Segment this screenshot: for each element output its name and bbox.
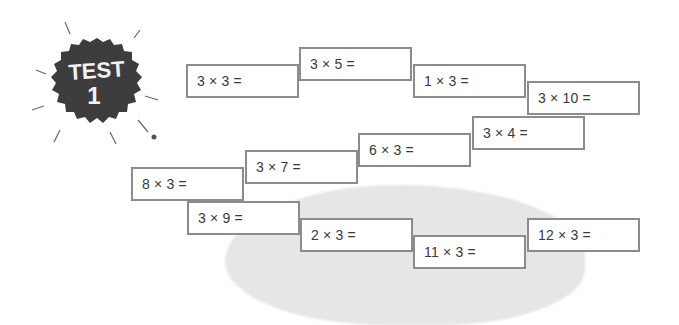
answer-box[interactable]: 3 × 9 = — [187, 201, 300, 235]
answer-box[interactable]: 3 × 10 = — [527, 81, 640, 115]
problem-label: 3 × 4 = — [483, 125, 528, 141]
answer-box[interactable]: 11 × 3 = — [413, 235, 526, 269]
problem-label: 3 × 5 = — [310, 56, 355, 72]
problem-label: 3 × 10 = — [538, 90, 591, 106]
answer-box[interactable]: 12 × 3 = — [527, 218, 640, 252]
answer-box[interactable]: 3 × 4 = — [472, 116, 585, 150]
answer-box[interactable]: 3 × 7 = — [245, 150, 358, 184]
answer-box[interactable]: 8 × 3 = — [131, 167, 244, 201]
problem-label: 3 × 3 = — [197, 73, 242, 89]
answer-box[interactable]: 3 × 3 = — [186, 64, 299, 98]
problem-label: 3 × 7 = — [256, 159, 301, 175]
problem-label: 1 × 3 = — [424, 73, 469, 89]
badge-number: 1 — [87, 82, 100, 109]
problem-label: 3 × 9 = — [198, 210, 243, 226]
badge-text-test: TEST — [68, 56, 126, 85]
problem-label: 12 × 3 = — [538, 227, 591, 243]
problem-label: 11 × 3 = — [424, 244, 476, 260]
answer-box[interactable]: 3 × 5 = — [299, 47, 412, 81]
problem-label: 8 × 3 = — [142, 176, 187, 192]
answer-box[interactable]: 6 × 3 = — [358, 133, 471, 167]
problem-label: 2 × 3 = — [311, 227, 356, 243]
answer-box[interactable]: 1 × 3 = — [413, 64, 526, 98]
problem-label: 6 × 3 = — [369, 142, 414, 158]
answer-box[interactable]: 2 × 3 = — [300, 218, 413, 252]
test-badge-splat-icon: TEST 1 — [30, 20, 165, 145]
